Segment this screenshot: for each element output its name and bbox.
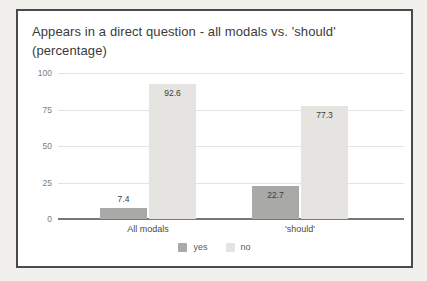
gridline [58, 110, 404, 111]
value-label: 7.4 [100, 194, 147, 204]
gridline [58, 146, 404, 147]
legend-swatch-no [226, 243, 235, 252]
legend-label: yes [193, 242, 207, 252]
legend-item-no: no [226, 242, 251, 252]
legend-label: no [241, 242, 251, 252]
y-axis-tick-label: 100 [26, 68, 52, 78]
gridline [58, 183, 404, 184]
value-label: 77.3 [301, 110, 348, 120]
chart-title: Appears in a direct question - all modal… [32, 22, 372, 60]
gridline [58, 73, 404, 74]
value-label: 22.7 [252, 190, 299, 200]
y-axis-tick-label: 75 [26, 105, 52, 115]
legend-swatch-yes [178, 243, 187, 252]
bar-no-1 [149, 84, 196, 219]
bar-no-2 [301, 106, 348, 219]
chart-container: Appears in a direct question - all modal… [16, 9, 413, 268]
x-axis-category-label: All modals [98, 224, 198, 234]
y-axis-tick-label: 50 [26, 141, 52, 151]
legend: yesno [18, 242, 411, 252]
y-axis-tick-label: 25 [26, 178, 52, 188]
value-label: 92.6 [149, 88, 196, 98]
bar-yes-1 [100, 208, 147, 219]
legend-item-yes: yes [178, 242, 207, 252]
x-axis-category-label: 'should' [250, 224, 350, 234]
y-axis-tick-label: 0 [26, 214, 52, 224]
page-background: Appears in a direct question - all modal… [0, 0, 427, 281]
